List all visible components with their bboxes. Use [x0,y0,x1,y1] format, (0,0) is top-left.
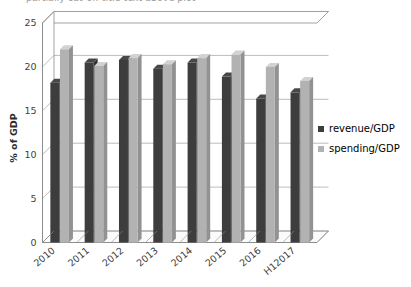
bar-spending-2015-side [241,51,245,243]
chart-legend: revenue/GDP spending/GDP [318,123,400,154]
x-axis-category-label: 2011 [66,245,92,269]
bar-spending-2013[interactable] [163,64,172,242]
bar-spending-2016[interactable] [266,67,275,243]
y-axis-tick-label: 10 [24,149,36,160]
bar-spending-2010[interactable] [60,49,69,242]
x-axis-category-label: 2012 [100,245,126,269]
bar-spending-2014[interactable] [197,58,206,242]
bar-revenue-2011[interactable] [85,63,94,243]
y-axis-tick-label: 25 [24,17,36,28]
bar-revenue-2013[interactable] [153,69,162,243]
bar-spending-2015[interactable] [232,55,241,243]
bar-revenue-2010[interactable] [50,83,59,243]
bar-revenue-2015[interactable] [222,77,231,243]
bar-revenue-H12017[interactable] [291,92,300,242]
bar-spending-H12017[interactable] [300,81,309,243]
y-axis-tick-label: 0 [30,237,36,248]
x-axis-category-label: 2016 [237,245,263,269]
legend-item-spending[interactable]: spending/GDP [318,143,400,154]
legend-item-revenue[interactable]: revenue/GDP [318,123,400,134]
bar-spending-2016-side [275,63,279,243]
x-axis-category-label: 2010 [31,245,57,269]
bar-spending-2011-side [103,62,107,242]
bar-spending-2013-side [172,60,176,242]
legend-label-spending: spending/GDP [329,143,400,154]
x-axis-category-label: H12017 [261,245,297,277]
bar-revenue-2016[interactable] [256,99,265,243]
bar-spending-2014-side [206,54,210,242]
bar-revenue-2012[interactable] [119,60,128,243]
bar-spending-H12017-side [309,77,313,243]
x-axis-category-label: 2014 [169,245,195,269]
x-axis-category-label: 2015 [203,245,229,269]
bar-spending-2010-side [69,45,73,242]
legend-label-revenue: revenue/GDP [329,123,395,134]
bar-spending-2012[interactable] [129,58,138,242]
bar-revenue-2014[interactable] [188,63,197,243]
y-axis-title: % of GDP [8,113,19,162]
bar-spending-2011[interactable] [94,66,103,242]
y-axis-tick-label: 5 [30,193,36,204]
y-axis-tick-label: 20 [24,61,36,72]
chart-container: partially cut-off title text above plot … [0,0,411,287]
y-axis-tick-label: 15 [24,105,36,116]
x-axis-category-label: 2013 [134,245,160,269]
legend-swatch-spending-icon [318,146,324,152]
bar-spending-2012-side [138,54,142,242]
legend-swatch-revenue-icon [318,126,324,132]
